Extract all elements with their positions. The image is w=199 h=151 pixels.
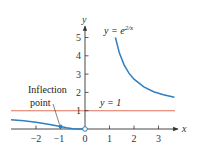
origin-open-circle	[83, 127, 88, 132]
x-tick-label: 3	[156, 133, 161, 144]
x-axis-label: x	[181, 123, 187, 134]
chart-canvas: −2 −1 0 1 2 3 1 2 3 4 5 x y Inflection p…	[0, 0, 199, 151]
x-tick-label: 2	[132, 133, 137, 144]
inflection-pointer-line	[53, 104, 60, 125]
y-axis-label: y	[81, 14, 87, 25]
inflection-label-line2: point	[30, 97, 51, 108]
inflection-label-line1: Inflection	[28, 84, 67, 95]
y-tick-label: 2	[76, 87, 81, 98]
y-tick-label: 3	[76, 69, 81, 80]
y-ticks	[85, 38, 89, 111]
curve-equation-label: y = e2/x	[103, 24, 134, 36]
x-tick-label: −2	[31, 133, 42, 144]
x-tick-label: 0	[83, 133, 88, 144]
x-tick-label: −1	[54, 133, 65, 144]
inflection-point-marker	[59, 125, 63, 129]
x-tick-label: 1	[107, 133, 112, 144]
y-tick-label: 4	[76, 50, 81, 61]
y-tick-label: 5	[76, 32, 81, 43]
y-tick-label: 1	[76, 105, 81, 116]
curve-left-branch	[11, 120, 85, 129]
asymptote-label: y = 1	[99, 97, 121, 108]
curve-right-branch	[115, 38, 174, 98]
